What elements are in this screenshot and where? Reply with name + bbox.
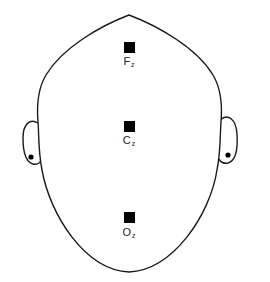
right-ear-reference-dot bbox=[225, 152, 230, 157]
electrode-fz-label: Fz bbox=[123, 56, 134, 68]
electrode-oz-letter: O bbox=[122, 226, 131, 238]
electrode-fz-subscript: z bbox=[131, 61, 135, 68]
electrode-cz-letter: C bbox=[123, 134, 131, 146]
electrode-cz-label: Cz bbox=[123, 135, 135, 147]
electrode-fz-letter: F bbox=[123, 55, 130, 67]
electrode-cz-subscript: z bbox=[132, 140, 136, 147]
electrode-fz-marker bbox=[124, 42, 135, 53]
electrode-oz-label: Oz bbox=[122, 227, 135, 239]
electrode-oz-subscript: z bbox=[132, 232, 136, 239]
electrode-oz-marker bbox=[124, 212, 135, 223]
left-ear-reference-dot bbox=[28, 154, 33, 159]
electrode-cz-marker bbox=[124, 121, 135, 132]
